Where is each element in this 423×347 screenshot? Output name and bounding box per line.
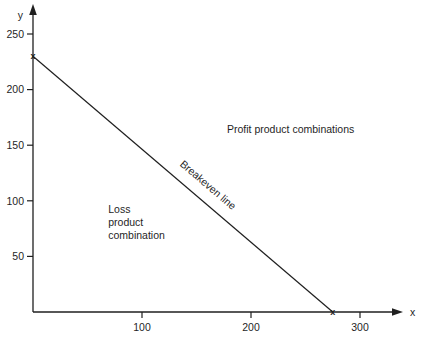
x-axis-label: x: [410, 306, 416, 318]
intercept-marker: x: [330, 307, 335, 317]
loss-region-label-line: Loss: [108, 203, 130, 215]
y-axis-label: y: [18, 9, 24, 21]
breakeven-chart-figure: xy10020030050100150200250xxBreakeven lin…: [0, 0, 423, 347]
y-tick-label: 250: [6, 28, 24, 40]
profit-region-label: Profit product combinations: [227, 123, 354, 135]
y-tick-label: 200: [6, 83, 24, 95]
x-tick-label: 100: [133, 321, 151, 333]
loss-region-label: Lossproductcombination: [108, 203, 165, 241]
breakeven-line: [33, 56, 333, 312]
profit-region-label-line: Profit product combinations: [227, 123, 354, 135]
y-tick-label: 150: [6, 139, 24, 151]
x-axis-arrowhead-icon: [392, 308, 403, 316]
x-tick-label: 200: [242, 321, 260, 333]
y-axis-arrowhead-icon: [29, 4, 37, 15]
loss-region-label-line: combination: [108, 229, 165, 241]
x-tick-label: 300: [351, 321, 369, 333]
chart-canvas: xy10020030050100150200250xxBreakeven lin…: [0, 0, 423, 347]
breakeven-line-label: Breakeven line: [178, 158, 239, 212]
loss-region-label-line: product: [108, 216, 143, 228]
intercept-marker: x: [30, 51, 35, 61]
y-tick-label: 50: [12, 250, 24, 262]
y-tick-label: 100: [6, 195, 24, 207]
